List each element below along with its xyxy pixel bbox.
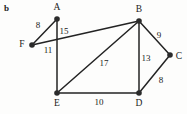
edge-weight-a-e: 15 — [60, 27, 69, 36]
nodes-group — [29, 16, 173, 96]
edge-weight-e-d: 10 — [95, 98, 104, 107]
graph-canvas — [0, 0, 187, 114]
graph-node-d — [136, 90, 142, 96]
edge-weight-c-d: 8 — [159, 76, 164, 85]
graph-node-f — [29, 42, 35, 48]
node-label-a: A — [54, 3, 61, 13]
graph-node-e — [54, 90, 60, 96]
edge-weight-b-c: 9 — [157, 31, 162, 40]
node-label-b: B — [136, 5, 142, 15]
graph-edge-b-c — [139, 21, 170, 55]
node-label-f: F — [19, 40, 24, 50]
edge-weight-f-b: 11 — [44, 46, 53, 55]
node-label-d: D — [136, 99, 143, 109]
graph-edge-f-b — [32, 21, 139, 45]
graph-node-c — [167, 52, 173, 58]
graph-figure: b ABCDEF 8151117913810 — [0, 0, 187, 114]
edge-weight-f-a: 8 — [36, 21, 41, 30]
node-label-c: C — [176, 52, 182, 62]
graph-edge-b-e — [57, 21, 139, 93]
graph-node-b — [136, 18, 142, 24]
graph-node-a — [54, 16, 60, 22]
node-label-e: E — [54, 99, 60, 109]
edge-weight-b-d: 13 — [142, 54, 151, 63]
edge-weight-b-e: 17 — [100, 59, 109, 68]
